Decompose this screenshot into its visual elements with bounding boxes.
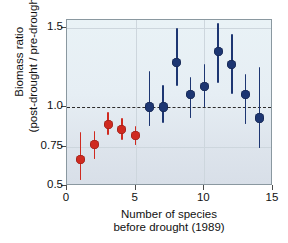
reference-line-1 [67, 107, 271, 108]
data-point [117, 125, 126, 134]
y-tick-label-0.75: 0.75 [41, 140, 63, 152]
x-axis-label: Number of species before drought (1989) [66, 208, 272, 234]
data-point [131, 131, 140, 140]
x-tick-label-10: 10 [188, 192, 218, 204]
gridline-x-5 [136, 20, 137, 184]
x-tick-5 [135, 185, 136, 190]
data-point [186, 90, 195, 99]
x-axis-label-line2: before drought (1989) [113, 221, 224, 233]
x-tick-0 [66, 185, 67, 190]
x-tick-label-15: 15 [257, 192, 287, 204]
plot-area [66, 19, 272, 185]
y-axis-label-line2: (post-drought / pre-drought) [27, 0, 41, 147]
data-point [159, 102, 168, 111]
data-point [172, 58, 181, 67]
x-axis-label-line1: Number of species [121, 208, 217, 220]
data-point [200, 82, 209, 91]
y-tick-label-0.5: 0.5 [47, 179, 63, 191]
data-point [255, 113, 264, 122]
x-tick-label-5: 5 [120, 192, 150, 204]
error-bar [149, 71, 151, 126]
gridline-y-1.5 [67, 28, 271, 29]
data-point [76, 155, 85, 164]
data-point [104, 120, 113, 129]
data-point [241, 90, 250, 99]
y-tick-label-1.0: 1.0 [47, 100, 63, 112]
data-point [145, 102, 154, 111]
figure: 0.50.751.01.5 051015 Number of species b… [0, 0, 288, 243]
x-tick-15 [272, 185, 273, 190]
y-axis-label: Biomass ratio (post-drought / pre-drough… [13, 0, 41, 147]
error-bar [259, 67, 261, 148]
data-point [227, 60, 236, 69]
data-point [214, 47, 223, 56]
data-point [90, 140, 99, 149]
y-axis-label-line1: Biomass ratio [13, 0, 27, 147]
error-bar [245, 74, 247, 125]
y-tick-label-1.5: 1.5 [47, 21, 63, 33]
x-tick-10 [203, 185, 204, 190]
x-tick-label-0: 0 [51, 192, 81, 204]
